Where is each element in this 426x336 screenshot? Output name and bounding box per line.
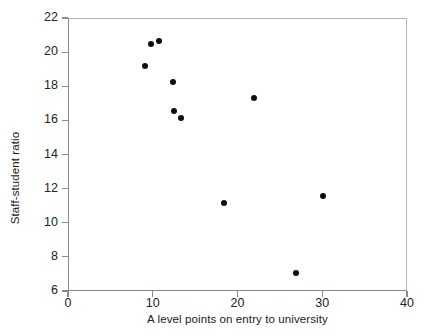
y-tick-mark [62,188,68,189]
data-point [171,108,177,114]
y-tick-mark [62,154,68,155]
y-tick-label: 20 [34,45,58,58]
plot-area [68,18,407,291]
y-tick-label: 6 [34,284,58,297]
x-tick-label: 40 [392,297,422,310]
y-tick-label: 16 [34,113,58,126]
y-tick-label: 12 [34,182,58,195]
data-point [251,95,257,101]
y-tick-label: 14 [34,148,58,161]
y-axis-title-text: Staff-student ratio [9,132,21,224]
data-point [156,38,162,44]
scatter-plot-figure: Staff-student ratio 6810121416182022 010… [0,0,426,336]
y-tick-label: 8 [34,250,58,263]
x-tick-label: 30 [307,297,337,310]
data-point [178,115,184,121]
data-point [142,63,148,69]
y-tick-mark [62,222,68,223]
y-tick-label: 18 [34,79,58,92]
y-tick-mark [62,120,68,121]
data-point [148,41,154,47]
y-tick-mark [62,256,68,257]
x-tick-label: 20 [223,297,253,310]
y-tick-mark [62,17,68,18]
y-tick-label: 22 [34,11,58,24]
x-axis-title: A level points on entry to university [68,313,407,325]
y-axis-title: Staff-student ratio [0,0,30,336]
y-tick-mark [62,52,68,53]
x-tick-label: 10 [138,297,168,310]
y-tick-label: 10 [34,216,58,229]
y-tick-mark [62,86,68,87]
x-tick-label: 0 [53,297,83,310]
